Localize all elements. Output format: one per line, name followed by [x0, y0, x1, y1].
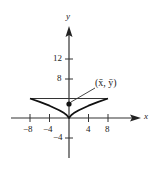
y-axis-label: y [66, 12, 70, 21]
centroid-leader-line [71, 88, 95, 102]
centroid-point [66, 101, 71, 106]
tick-label-x-minus-4: −4 [43, 125, 53, 134]
tick-label-x-8: 8 [105, 125, 110, 134]
tick-label-x-minus-8: −8 [23, 125, 33, 134]
tick-label-y-8: 8 [57, 74, 62, 83]
tick-label-y-minus-4: −4 [53, 133, 63, 142]
plot-canvas [0, 0, 164, 169]
centroid-label: (x̄, ȳ) [95, 78, 117, 88]
x-axis-label: x [144, 112, 148, 121]
tick-label-x-4: 4 [86, 125, 91, 134]
tick-label-y-12: 12 [53, 54, 62, 63]
